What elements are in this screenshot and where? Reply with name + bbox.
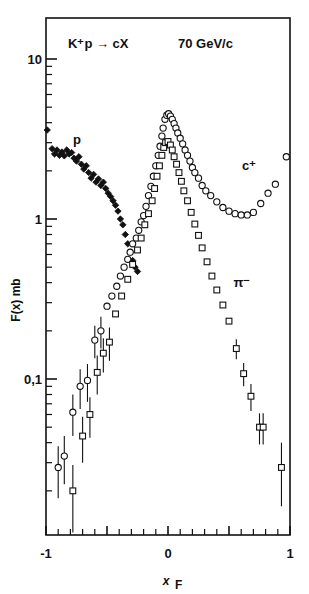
x-axis-label-main: x	[162, 574, 171, 588]
x-axis-label-sub: F	[175, 578, 182, 592]
y-tick-label-1: 1	[35, 212, 42, 227]
plot-title-energy: 70 GeV/c	[178, 36, 233, 51]
scatter-plot: 10 1 0,1 -1 0 1 F(x) mb x F K⁺p → cX 70 …	[0, 0, 309, 594]
x-tick-label-plus1: 1	[286, 546, 293, 561]
y-axis-label: F(x) mb	[9, 278, 23, 321]
annotation-pion: π⁻	[234, 275, 251, 290]
annotation-proton: p	[73, 132, 81, 147]
plot-title-reaction: K⁺p → cX	[68, 36, 129, 51]
annotation-charged: c⁺	[242, 158, 256, 173]
x-tick-label-zero: 0	[164, 546, 171, 561]
figure-container: 10 1 0,1 -1 0 1 F(x) mb x F K⁺p → cX 70 …	[0, 0, 309, 594]
y-tick-label-0.1: 0,1	[24, 372, 42, 387]
y-tick-label-10: 10	[28, 52, 42, 67]
x-tick-label-minus1: -1	[40, 546, 52, 561]
